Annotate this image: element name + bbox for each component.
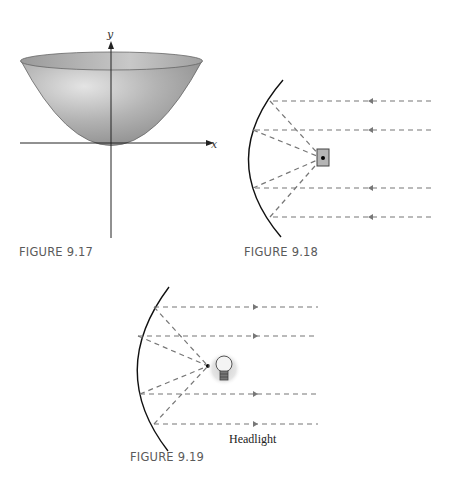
- y-axis-label: y: [106, 28, 114, 41]
- paraboloid-figure: y x: [20, 28, 218, 238]
- figures-canvas: y x: [0, 0, 452, 484]
- figure-9-19-caption: FIGURE 9.19: [130, 450, 204, 464]
- headlight-label: Headlight: [229, 432, 276, 447]
- x-axis-label: x: [211, 138, 218, 151]
- figure-9-18-caption: FIGURE 9.18: [244, 245, 318, 259]
- reflector-receiver-figure: [248, 80, 431, 237]
- figure-9-17-caption: FIGURE 9.17: [19, 245, 93, 259]
- light-bulb-icon: [207, 352, 241, 386]
